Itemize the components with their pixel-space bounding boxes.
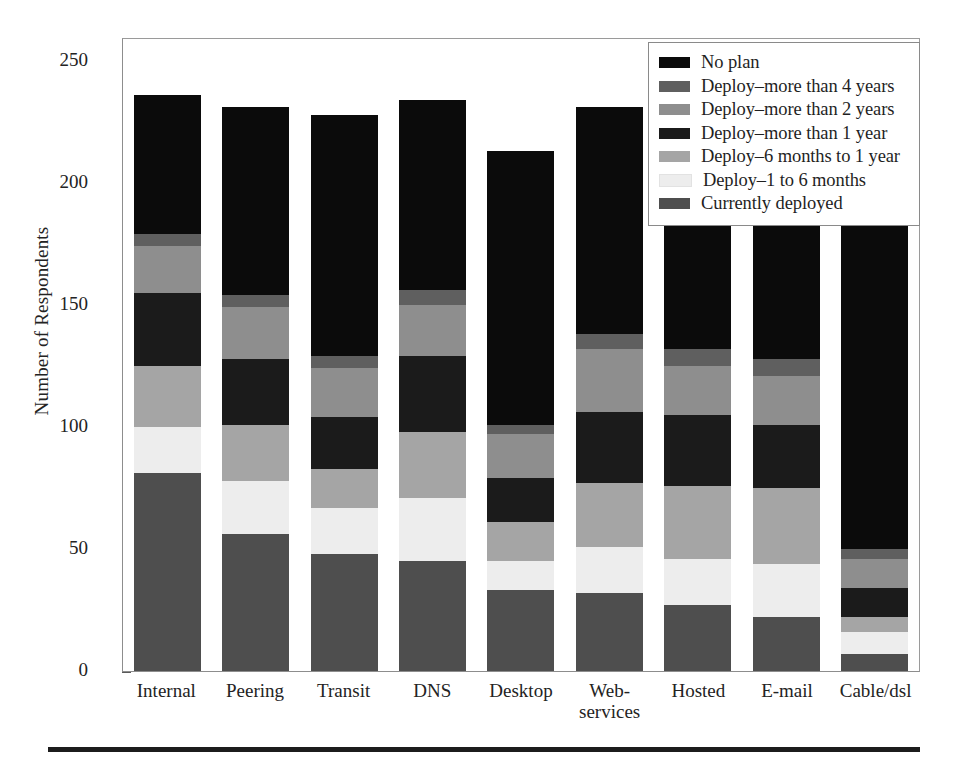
legend-label: Deploy–1 to 6 months (703, 170, 866, 191)
bar-segment (487, 590, 554, 671)
legend-swatch-icon (659, 151, 690, 162)
bar-segment (753, 425, 820, 488)
bar-internal[interactable] (134, 95, 201, 671)
bar-segment (576, 107, 643, 334)
legend-item[interactable]: Deploy–6 months to 1 year (659, 145, 909, 169)
chart-legend: No planDeploy–more than 4 yearsDeploy–mo… (648, 42, 920, 226)
bar-segment (222, 359, 289, 425)
bar-dns[interactable] (399, 100, 466, 671)
bar-segment (753, 564, 820, 618)
legend-item[interactable]: Deploy–1 to 6 months (659, 169, 909, 193)
bar-segment (664, 486, 731, 559)
bar-segment (753, 488, 820, 564)
bar-segment (222, 481, 289, 535)
bar-segment (134, 473, 201, 671)
bar-segment (576, 349, 643, 412)
legend-item[interactable]: Currently deployed (659, 192, 909, 216)
bar-segment (222, 295, 289, 307)
bar-segment (841, 549, 908, 559)
bar-segment (222, 534, 289, 671)
bar-segment (576, 483, 643, 546)
bar-segment (399, 305, 466, 356)
bar-segment (841, 632, 908, 654)
legend-item[interactable]: Deploy–more than 1 year (659, 122, 909, 146)
legend-label: Currently deployed (701, 193, 843, 214)
bar-segment (487, 561, 554, 590)
bar-segment (487, 478, 554, 522)
bar-segment (664, 366, 731, 415)
bar-segment (222, 107, 289, 295)
legend-label: Deploy–6 months to 1 year (701, 146, 900, 167)
bar-segment (664, 605, 731, 671)
legend-item[interactable]: Deploy–more than 4 years (659, 75, 909, 99)
bar-segment (311, 508, 378, 554)
stacked-bar-chart-figure: Number of Respondents 050100150200250 In… (0, 0, 965, 766)
bar-segment (134, 95, 201, 234)
bar-segment (841, 559, 908, 588)
bar-segment (311, 554, 378, 671)
y-tick-label: 250 (28, 49, 88, 71)
x-axis-label: E-mail (743, 681, 832, 702)
bar-segment (399, 290, 466, 305)
bar-segment (399, 561, 466, 671)
bar-segment (222, 307, 289, 358)
bar-segment (487, 151, 554, 424)
bar-segment (487, 425, 554, 435)
bar-segment (664, 349, 731, 366)
legend-item[interactable]: Deploy–more than 2 years (659, 98, 909, 122)
legend-item[interactable]: No plan (659, 51, 909, 75)
bar-segment (576, 334, 643, 349)
bar-peering[interactable] (222, 107, 289, 671)
bar-segment (134, 366, 201, 427)
x-axis-label: Cable/dsl (831, 681, 920, 702)
legend-label: Deploy–more than 2 years (701, 99, 894, 120)
legend-swatch-icon (659, 198, 690, 209)
bottom-rule (48, 747, 920, 752)
x-axis-label: Web- services (565, 681, 654, 722)
legend-swatch-icon (659, 128, 690, 139)
bar-segment (753, 359, 820, 376)
bar-segment (311, 356, 378, 368)
y-tick-label: 200 (28, 171, 88, 193)
bar-desktop[interactable] (487, 151, 554, 671)
bar-segment (576, 547, 643, 593)
y-tick-label: 50 (28, 537, 88, 559)
legend-label: No plan (701, 52, 759, 73)
bar-segment (841, 654, 908, 671)
y-tick-label: 0 (28, 659, 88, 681)
bar-segment (487, 434, 554, 478)
bar-segment (664, 559, 731, 605)
bar-segment (399, 432, 466, 498)
bar-web-services[interactable] (576, 107, 643, 671)
bar-segment (311, 417, 378, 468)
x-axis-label: Peering (211, 681, 300, 702)
bar-segment (311, 469, 378, 508)
bar-segment (487, 522, 554, 561)
x-axis-label: Transit (299, 681, 388, 702)
bar-segment (399, 356, 466, 432)
bar-segment (753, 376, 820, 425)
bar-segment (399, 498, 466, 561)
x-axis-label: DNS (388, 681, 477, 702)
legend-swatch-icon (659, 104, 690, 115)
bar-segment (311, 115, 378, 357)
bar-segment (134, 427, 201, 473)
bar-segment (399, 100, 466, 290)
bar-segment (311, 368, 378, 417)
legend-swatch-icon (659, 81, 690, 92)
legend-swatch-icon (659, 174, 692, 187)
bar-segment (576, 593, 643, 671)
x-axis-label: Hosted (654, 681, 743, 702)
legend-swatch-icon (659, 57, 690, 68)
x-axis-label: Desktop (477, 681, 566, 702)
bar-transit[interactable] (311, 115, 378, 671)
bar-segment (134, 293, 201, 366)
bar-segment (134, 246, 201, 292)
bar-segment (664, 415, 731, 486)
legend-label: Deploy–more than 4 years (701, 76, 894, 97)
bar-segment (134, 234, 201, 246)
y-tick-label: 100 (28, 415, 88, 437)
bar-segment (841, 617, 908, 632)
bar-segment (841, 588, 908, 617)
bar-segment (222, 425, 289, 481)
